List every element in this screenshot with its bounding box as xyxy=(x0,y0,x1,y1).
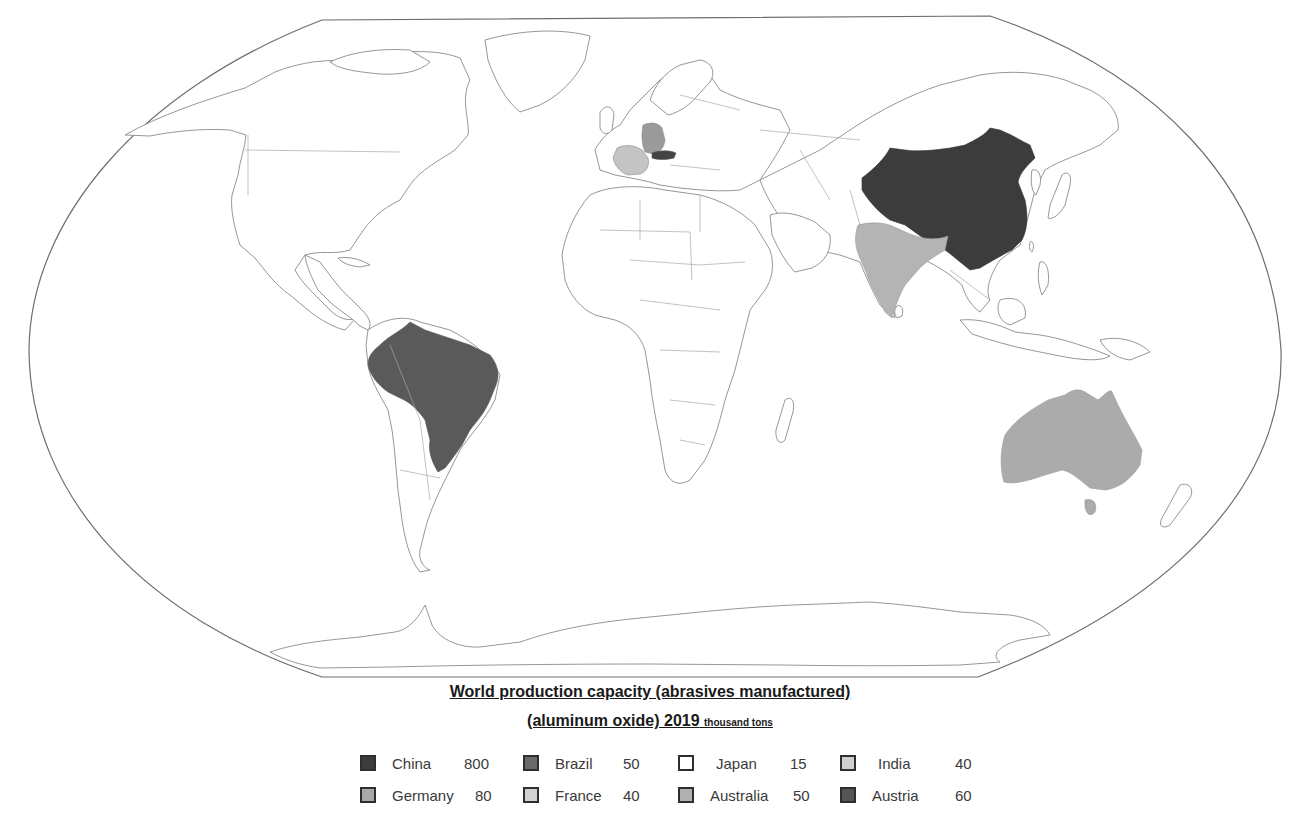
indonesia xyxy=(960,320,1110,360)
caribbean xyxy=(338,257,370,267)
legend-value: 50 xyxy=(623,755,640,772)
madagascar xyxy=(776,398,794,442)
legend-swatch xyxy=(678,755,694,771)
title-line2-main: (aluminum oxide) 2019 xyxy=(527,712,700,729)
legend-item-japan: Japan 15 xyxy=(678,752,757,774)
antarctica xyxy=(270,602,1050,668)
borneo xyxy=(998,298,1025,325)
greenland xyxy=(485,31,590,112)
legend-item-france: France 40 xyxy=(523,784,602,806)
legend-value: 80 xyxy=(475,787,492,804)
legend-swatch xyxy=(360,755,376,771)
legend-item-australia: Australia 50 xyxy=(678,784,768,806)
legend-label: Australia xyxy=(710,787,768,804)
north-america xyxy=(125,52,470,330)
legend-swatch xyxy=(523,755,539,771)
legend-value: 50 xyxy=(793,787,810,804)
legend-item-brazil: Brazil 50 xyxy=(523,752,593,774)
legend-swatch xyxy=(840,755,856,771)
map-title-line2: (aluminum oxide) 2019 thousand tons xyxy=(0,712,1300,730)
legend-label: Austria xyxy=(872,787,919,804)
sri-lanka xyxy=(895,306,903,318)
legend-label: China xyxy=(392,755,431,772)
new-zealand xyxy=(1160,484,1191,527)
legend-item-germany: Germany 80 xyxy=(360,784,454,806)
legend-swatch xyxy=(678,787,694,803)
philippines xyxy=(1038,262,1048,295)
japan xyxy=(1048,173,1071,218)
austria xyxy=(652,151,676,160)
world-map xyxy=(0,0,1300,690)
legend-item-china: China 800 xyxy=(360,752,431,774)
legend-value: 15 xyxy=(790,755,807,772)
legend-label: France xyxy=(555,787,602,804)
legend-swatch xyxy=(840,787,856,803)
australia xyxy=(1001,390,1142,490)
legend-label: Brazil xyxy=(555,755,593,772)
legend-label: Germany xyxy=(392,787,454,804)
legend-swatch xyxy=(360,787,376,803)
title-line2-text: (aluminum oxide) 2019 thousand tons xyxy=(527,712,773,729)
map-title-line1: World production capacity (abrasives man… xyxy=(0,683,1300,701)
legend-item-india: India 40 xyxy=(840,752,911,774)
germany xyxy=(642,123,665,154)
legend-value: 40 xyxy=(955,755,972,772)
title-line1-text: World production capacity (abrasives man… xyxy=(450,683,851,700)
legend-item-austria: Austria 60 xyxy=(840,784,919,806)
title-unit: thousand tons xyxy=(704,717,773,728)
legend-value: 40 xyxy=(623,787,640,804)
legend-label: Japan xyxy=(716,755,757,772)
taiwan xyxy=(1029,242,1033,252)
uk xyxy=(600,107,614,134)
legend-label: India xyxy=(878,755,911,772)
legend-value: 800 xyxy=(464,755,489,772)
legend-value: 60 xyxy=(955,787,972,804)
legend-swatch xyxy=(523,787,539,803)
tasmania xyxy=(1085,500,1096,515)
